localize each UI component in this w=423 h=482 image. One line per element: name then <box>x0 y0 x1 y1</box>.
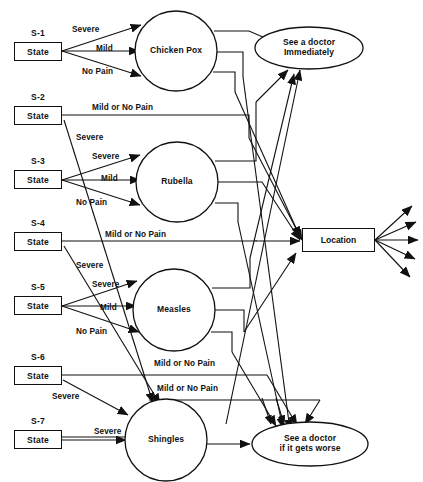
edge-label-s5-severe: Severe <box>92 280 119 289</box>
location-node[interactable]: Location <box>302 228 375 252</box>
edge-label-s6-mild-or-no-pain: Mild or No Pain <box>154 359 215 368</box>
edge-label-s3-severe: Severe <box>92 152 119 161</box>
edge-fan-worse-1 <box>262 398 271 424</box>
state-id-s2: S-2 <box>14 92 62 102</box>
node-rubella-shape <box>136 142 218 222</box>
edge-rub-low-stub <box>215 203 238 222</box>
edge-location-out-5 <box>375 240 410 277</box>
edge-mea-mid-stub <box>213 310 244 332</box>
state-box-s6[interactable]: State <box>14 366 62 385</box>
edge-location-out-2 <box>375 222 416 240</box>
edge-label-s5-mild: Mild <box>100 303 117 312</box>
decision-diagram-canvas: S-1 State S-2 State S-3 State S-4 State … <box>0 0 423 482</box>
edge-label-s4-mild-or-no-pain: Mild or No Pain <box>105 230 166 239</box>
edge-feeder-to-doctor-immediately-2 <box>226 70 300 424</box>
edge-mea-low-stub <box>211 332 232 352</box>
state-id-s1: S-1 <box>14 28 62 38</box>
state-box-s7[interactable]: State <box>14 430 62 449</box>
edge-location-out-4 <box>375 240 415 259</box>
edge-label-s1-mild: Mild <box>96 44 113 53</box>
edge-label-s6-severe: Severe <box>52 392 79 401</box>
edge-label-s3-no-pain: No Pain <box>76 198 107 207</box>
edge-label-s7-severe: Severe <box>94 427 121 436</box>
edge-label-s3-mild: Mild <box>101 174 118 183</box>
node-see-doctor-immediately-shape <box>255 27 363 69</box>
node-chicken-pox-shape <box>135 11 217 91</box>
edge-location-out-1 <box>375 206 412 240</box>
edge-label-s1-no-pain: No Pain <box>82 67 113 76</box>
edge-cp-to-location <box>235 92 300 237</box>
state-box-s4[interactable]: State <box>14 232 62 251</box>
state-id-s7: S-7 <box>14 416 62 426</box>
node-measles-shape <box>133 269 215 351</box>
edge-label-s4-severe: Severe <box>76 261 103 270</box>
node-see-doctor-worse-shape <box>252 422 368 466</box>
edge-label-s1-severe: Severe <box>72 25 99 34</box>
state-box-s2[interactable]: State <box>14 106 62 125</box>
edge-mea-to-location <box>244 253 296 332</box>
edge-mea-up-stub <box>212 258 250 288</box>
edge-label-s2-severe: Severe <box>76 133 103 142</box>
edge-cp-low-stub <box>213 72 235 92</box>
state-id-s5: S-5 <box>14 282 62 292</box>
edge-cp-to-doctor-worse <box>243 77 290 430</box>
state-box-s5[interactable]: State <box>14 296 62 315</box>
state-id-s3: S-3 <box>14 156 62 166</box>
edge-rub-to-doctor-immediately <box>256 70 288 102</box>
edge-s4-route <box>62 240 256 241</box>
edge-s7-to-doctor-worse <box>305 400 320 424</box>
state-box-s3[interactable]: State <box>14 170 62 189</box>
edge-label-s7-mild-or-no-pain: Mild or No Pain <box>157 384 218 393</box>
edge-cp-mid-stub <box>215 52 243 77</box>
state-box-s1[interactable]: State <box>14 42 62 61</box>
state-id-s4: S-4 <box>14 218 62 228</box>
edge-label-s5-no-pain: No Pain <box>76 327 107 336</box>
node-shingles-shape <box>125 399 207 481</box>
edge-label-s2-mild-or-no-pain: Mild or No Pain <box>92 103 153 112</box>
state-id-s6: S-6 <box>14 352 62 362</box>
